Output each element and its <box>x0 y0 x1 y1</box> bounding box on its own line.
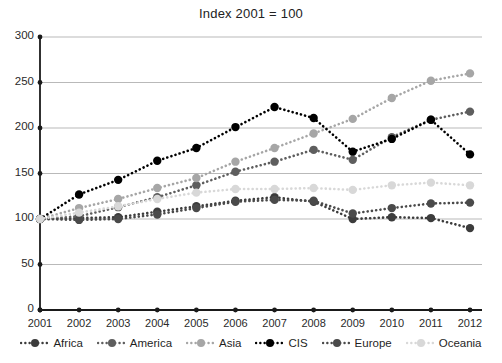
data-point-cis-2006 <box>231 123 239 131</box>
legend-label-asia: Asia <box>219 337 241 349</box>
x-tick-label-2009: 2009 <box>331 317 375 329</box>
data-point-oceania-2002 <box>75 208 83 216</box>
x-tick-mark-2005 <box>194 308 199 313</box>
data-point-oceania-2009 <box>349 186 357 194</box>
data-point-asia-2012 <box>466 69 474 77</box>
data-point-america-2005 <box>192 181 200 189</box>
x-tick-label-2006: 2006 <box>213 317 257 329</box>
data-point-europe-2008 <box>309 197 317 205</box>
data-point-oceania-2005 <box>192 188 200 196</box>
legend-label-africa: Africa <box>53 337 82 349</box>
series-line-cis <box>40 107 470 219</box>
x-tick-mark-2008 <box>311 308 316 313</box>
data-point-cis-2010 <box>388 135 396 143</box>
x-tick-mark-2011 <box>429 308 434 313</box>
data-point-europe-2005 <box>192 204 200 212</box>
legend-item-europe[interactable]: Europe <box>322 337 392 349</box>
x-tick-label-2002: 2002 <box>57 317 101 329</box>
data-point-cis-2007 <box>270 103 278 111</box>
legend-label-oceania: Oceania <box>439 337 482 349</box>
x-tick-label-2008: 2008 <box>292 317 336 329</box>
data-point-oceania-2006 <box>231 185 239 193</box>
data-point-cis-2009 <box>349 147 357 155</box>
legend-item-america[interactable]: America <box>97 337 172 349</box>
legend-label-cis: CIS <box>288 337 307 349</box>
data-point-cis-2004 <box>153 157 161 165</box>
data-point-oceania-2004 <box>153 195 161 203</box>
y-tick-label-150: 150 <box>0 166 34 178</box>
data-point-oceania-2001 <box>36 215 44 223</box>
data-point-europe-2006 <box>231 198 239 206</box>
data-point-cis-2011 <box>427 116 435 124</box>
x-tick-label-2004: 2004 <box>135 317 179 329</box>
legend-item-asia[interactable]: Asia <box>186 337 241 349</box>
data-point-asia-2003 <box>114 195 122 203</box>
data-point-oceania-2010 <box>388 181 396 189</box>
x-tick-label-2011: 2011 <box>409 317 453 329</box>
x-tick-mark-2007 <box>272 308 277 313</box>
data-point-asia-2007 <box>270 144 278 152</box>
data-point-africa-2011 <box>427 214 435 222</box>
x-tick-label-2001: 2001 <box>18 317 62 329</box>
x-tick-mark-2002 <box>77 308 82 313</box>
y-tick-mark-300 <box>38 35 43 40</box>
data-point-europe-2011 <box>427 199 435 207</box>
y-tick-mark-200 <box>38 126 43 131</box>
series-line-africa <box>40 197 470 228</box>
y-tick-label-0: 0 <box>0 302 34 314</box>
data-point-asia-2011 <box>427 76 435 84</box>
x-tick-label-2005: 2005 <box>174 317 218 329</box>
data-point-america-2008 <box>309 146 317 154</box>
data-point-oceania-2003 <box>114 202 122 210</box>
x-tick-label-2012: 2012 <box>448 317 492 329</box>
data-point-oceania-2012 <box>466 181 474 189</box>
x-tick-mark-2003 <box>116 308 121 313</box>
data-point-america-2012 <box>466 107 474 115</box>
y-tick-label-200: 200 <box>0 120 34 132</box>
y-tick-mark-250 <box>38 80 43 85</box>
x-tick-label-2010: 2010 <box>370 317 414 329</box>
x-tick-mark-2009 <box>350 308 355 313</box>
legend-label-america: America <box>130 337 172 349</box>
data-point-america-2009 <box>349 156 357 164</box>
data-point-africa-2012 <box>466 224 474 232</box>
x-tick-mark-2010 <box>389 308 394 313</box>
data-point-oceania-2007 <box>270 185 278 193</box>
y-tick-label-250: 250 <box>0 75 34 87</box>
data-point-asia-2009 <box>349 115 357 123</box>
y-tick-mark-50 <box>38 262 43 267</box>
legend-marker-oceania-icon <box>406 337 436 349</box>
data-point-oceania-2008 <box>309 184 317 192</box>
chart-legend: AfricaAmericaAsiaCISEuropeOceania <box>0 337 502 349</box>
legend-marker-europe-icon <box>322 337 352 349</box>
legend-marker-africa-icon <box>20 337 50 349</box>
y-tick-mark-150 <box>38 171 43 176</box>
data-point-asia-2010 <box>388 94 396 102</box>
data-point-cis-2012 <box>466 150 474 158</box>
data-point-cis-2005 <box>192 144 200 152</box>
data-point-europe-2002 <box>75 216 83 224</box>
data-point-america-2007 <box>270 157 278 165</box>
chart-container: Index 2001 = 100 300250200150100500 2001… <box>0 0 502 363</box>
y-tick-label-100: 100 <box>0 211 34 223</box>
data-point-asia-2005 <box>192 174 200 182</box>
x-tick-mark-2004 <box>155 308 160 313</box>
x-tick-label-2003: 2003 <box>96 317 140 329</box>
data-point-oceania-2011 <box>427 178 435 186</box>
legend-label-europe: Europe <box>355 337 392 349</box>
series-line-asia <box>40 73 470 219</box>
data-point-cis-2008 <box>309 114 317 122</box>
legend-item-cis[interactable]: CIS <box>255 337 307 349</box>
x-tick-mark-2001 <box>38 308 43 313</box>
legend-item-africa[interactable]: Africa <box>20 337 82 349</box>
legend-item-oceania[interactable]: Oceania <box>406 337 482 349</box>
data-point-africa-2010 <box>388 213 396 221</box>
data-point-asia-2006 <box>231 157 239 165</box>
x-tick-label-2007: 2007 <box>253 317 297 329</box>
data-point-europe-2009 <box>349 209 357 217</box>
data-point-america-2006 <box>231 167 239 175</box>
data-point-europe-2004 <box>153 210 161 218</box>
legend-marker-cis-icon <box>255 337 285 349</box>
data-point-europe-2010 <box>388 204 396 212</box>
x-tick-mark-2012 <box>468 308 473 313</box>
